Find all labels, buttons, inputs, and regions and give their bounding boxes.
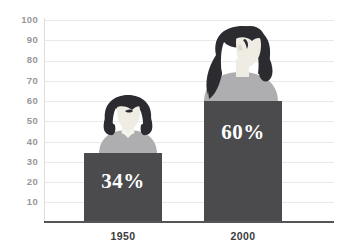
x-tick-label-1950: 1950	[63, 230, 183, 242]
y-axis-line	[44, 18, 45, 222]
gridline-100	[44, 20, 334, 21]
y-tick-label-90: 90	[4, 35, 38, 45]
bar-1950: 34%	[84, 153, 162, 222]
bar-value-1950: 34%	[84, 170, 162, 192]
gridline-60	[44, 101, 334, 102]
gridline-40	[44, 142, 334, 143]
y-tick-label-10: 10	[4, 197, 38, 207]
bar-chart: 100 90 80 70 60 50 40 30 20 10	[0, 0, 346, 252]
x-axis-line	[44, 221, 334, 223]
y-tick-label-40: 40	[4, 137, 38, 147]
bar-2000: 60%	[204, 101, 282, 222]
gridline-70	[44, 81, 334, 82]
y-tick-label-70: 70	[4, 76, 38, 86]
y-tick-label-100: 100	[4, 15, 38, 25]
y-tick-label-80: 80	[4, 55, 38, 65]
woman-short-hair-illustration	[95, 94, 161, 154]
x-tick-label-2000: 2000	[183, 230, 303, 242]
gridline-50	[44, 121, 334, 122]
gridline-80	[44, 61, 334, 62]
y-tick-label-50: 50	[4, 116, 38, 126]
woman-long-hair-illustration	[196, 25, 284, 102]
y-tick-label-60: 60	[4, 96, 38, 106]
bar-value-2000: 60%	[204, 121, 282, 143]
y-tick-label-30: 30	[4, 157, 38, 167]
gridline-90	[44, 40, 334, 41]
y-tick-label-20: 20	[4, 177, 38, 187]
